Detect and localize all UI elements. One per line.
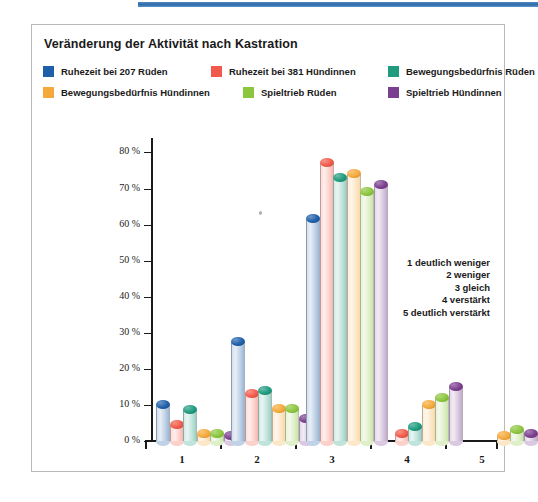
bar-bottom-ellipse <box>224 437 238 446</box>
bar-bottom-ellipse <box>497 437 511 446</box>
bar <box>258 386 272 442</box>
bar-top-ellipse <box>197 429 211 438</box>
bar-body <box>245 394 259 441</box>
bar-body <box>435 398 449 441</box>
bar-body <box>524 434 538 441</box>
legend-swatch-icon <box>388 87 399 98</box>
bar <box>333 173 347 441</box>
bar-top-ellipse <box>395 429 409 438</box>
y-axis-tick-label: 30 % <box>94 326 140 337</box>
bar-top-ellipse <box>272 404 286 413</box>
legend-item[interactable]: Bewegungsbedürfnis Hündinnen <box>43 87 210 98</box>
bar-top-ellipse <box>210 429 224 438</box>
bar <box>422 400 436 441</box>
bar-body <box>258 391 272 442</box>
x-axis-tick <box>496 442 498 449</box>
legend-item-label: Spieltrieb Hündinnen <box>406 87 502 98</box>
bar-body <box>210 434 224 441</box>
y-axis-tick-label: 50 % <box>94 254 140 265</box>
y-axis-tick <box>144 152 152 153</box>
bar-body <box>231 342 245 441</box>
legend-swatch-icon <box>211 66 222 77</box>
bar-top-ellipse <box>170 420 184 429</box>
legend-item[interactable]: Spieltrieb Hündinnen <box>388 87 502 98</box>
bar <box>320 158 334 441</box>
bar-bottom-ellipse <box>435 437 449 446</box>
bar-bottom-ellipse <box>408 437 422 446</box>
scale-key-line: 4 verstärkt <box>403 294 490 306</box>
bar <box>224 431 238 441</box>
bar <box>183 405 197 441</box>
bar-top-ellipse <box>320 158 334 167</box>
bar-body <box>497 436 511 441</box>
y-axis-tick-label: 80 % <box>94 145 140 156</box>
bar <box>435 393 449 441</box>
bar-bottom-ellipse <box>510 437 524 446</box>
bar-bottom-ellipse <box>449 437 463 446</box>
scale-key-line: 5 deutlich verstärkt <box>403 307 490 319</box>
legend-row: Bewegungsbedürfnis HündinnenSpieltrieb R… <box>43 84 495 101</box>
x-axis-tick-label: 3 <box>312 453 352 465</box>
y-axis-tick-label: 70 % <box>94 182 140 193</box>
bar-bottom-ellipse <box>347 437 361 446</box>
legend-item[interactable]: Bewegungsbedürfnis Rüden <box>388 66 535 77</box>
x-axis-tick <box>370 442 372 449</box>
bar <box>170 420 184 441</box>
legend-swatch-icon <box>43 66 54 77</box>
y-axis-tick-label: 60 % <box>94 218 140 229</box>
page-header-rule <box>138 2 538 7</box>
bar-bottom-ellipse <box>360 437 374 446</box>
bar-top-ellipse <box>422 400 436 409</box>
bar-bottom-ellipse <box>395 437 409 446</box>
bar <box>231 337 245 441</box>
y-axis-tick <box>144 405 152 406</box>
bar-bottom-ellipse <box>285 437 299 446</box>
legend-item-label: Ruhezeit bei 207 Rüden <box>61 66 168 77</box>
bar <box>299 414 313 441</box>
bar-top-ellipse <box>497 431 511 440</box>
bar <box>510 425 524 441</box>
legend-item[interactable]: Ruhezeit bei 381 Hündinnen <box>211 66 356 77</box>
bar <box>156 400 170 441</box>
y-axis-tick <box>144 333 152 334</box>
bar-top-ellipse <box>306 214 320 223</box>
y-axis-tick-label: 0 % <box>94 434 140 445</box>
y-axis-tick <box>144 261 152 262</box>
figure-page: Veränderung der Aktivität nach Kastratio… <box>0 0 538 502</box>
bar-top-ellipse <box>435 393 449 402</box>
chart-title: Veränderung der Aktivität nach Kastratio… <box>44 37 298 51</box>
bar <box>210 429 224 441</box>
bar-top-ellipse <box>347 169 361 178</box>
scale-key-line: 3 gleich <box>403 282 490 294</box>
scale-key-line: 2 weniger <box>403 269 490 281</box>
bar <box>347 169 361 441</box>
x-axis-tick <box>295 442 297 449</box>
bar <box>497 431 511 441</box>
legend-item[interactable]: Spieltrieb Rüden <box>243 87 336 98</box>
bar-bottom-ellipse <box>170 437 184 446</box>
legend-swatch-icon <box>243 87 254 98</box>
bar <box>197 429 211 441</box>
bar-top-ellipse <box>408 422 422 431</box>
legend-item-label: Spieltrieb Rüden <box>261 87 336 98</box>
bar-top-ellipse <box>360 187 374 196</box>
bar-body <box>333 178 347 441</box>
bar-top-ellipse <box>299 414 313 423</box>
y-axis-tick <box>144 441 152 442</box>
bar <box>245 389 259 441</box>
bar-bottom-ellipse <box>245 437 259 446</box>
bar <box>285 404 299 441</box>
bar-top-ellipse <box>156 400 170 409</box>
legend-swatch-icon <box>43 87 54 98</box>
scale-key: 1 deutlich weniger2 weniger3 gleich4 ver… <box>403 257 490 319</box>
bar-top-ellipse <box>510 425 524 434</box>
y-axis-tick <box>144 297 152 298</box>
x-axis-tick-label: 4 <box>387 453 427 465</box>
bar-top-ellipse <box>524 429 538 438</box>
bar-body <box>320 163 334 441</box>
y-axis-tick <box>144 189 152 190</box>
legend-swatch-icon <box>388 66 399 77</box>
legend-item[interactable]: Ruhezeit bei 207 Rüden <box>43 66 168 77</box>
bar <box>272 404 286 441</box>
bar <box>395 429 409 441</box>
